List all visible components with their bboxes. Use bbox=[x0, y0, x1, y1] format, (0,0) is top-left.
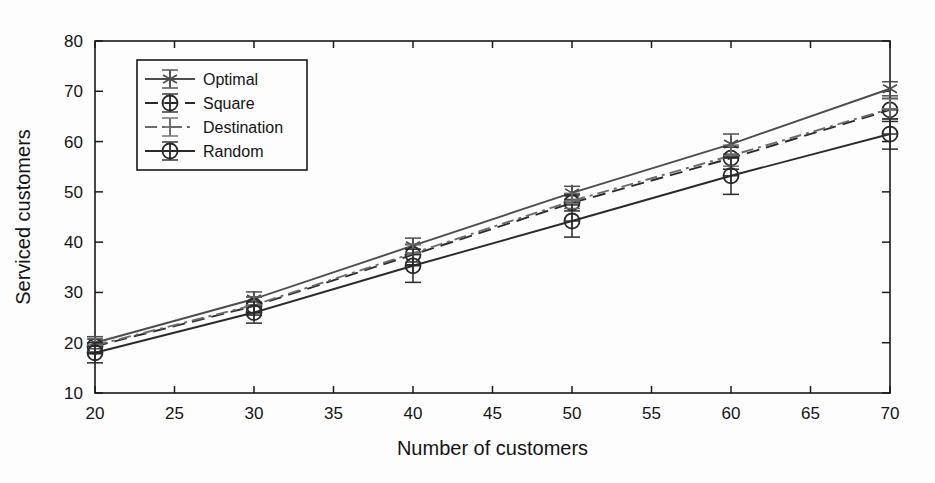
marker-circle bbox=[883, 127, 898, 142]
x-tick-label: 35 bbox=[324, 404, 343, 423]
marker-circle bbox=[724, 168, 739, 183]
legend-group: OptimalSquareDestinationRandom bbox=[137, 60, 307, 170]
x-axis-label: Number of customers bbox=[397, 437, 588, 459]
y-tick-label: 30 bbox=[64, 283, 83, 302]
marker-circle bbox=[406, 258, 421, 273]
y-tick-label: 40 bbox=[64, 233, 83, 252]
y-tick-label: 20 bbox=[64, 334, 83, 353]
y-axis-label: Serviced customers bbox=[12, 129, 34, 305]
chart-canvas: 20253035404550556065701020304050607080 O… bbox=[0, 0, 935, 483]
marker-circle bbox=[163, 96, 178, 111]
x-tick-label: 60 bbox=[722, 404, 741, 423]
x-tick-label: 40 bbox=[404, 404, 423, 423]
y-tick-label: 50 bbox=[64, 183, 83, 202]
x-tick-label: 70 bbox=[881, 404, 900, 423]
marker-circle bbox=[163, 144, 178, 159]
x-tick-label: 55 bbox=[642, 404, 661, 423]
y-tick-label: 10 bbox=[64, 384, 83, 403]
x-tick-label: 50 bbox=[563, 404, 582, 423]
x-tick-label: 30 bbox=[245, 404, 264, 423]
legend-label: Destination bbox=[203, 119, 283, 136]
x-tick-label: 20 bbox=[86, 404, 105, 423]
marker-circle bbox=[565, 214, 580, 229]
x-tick-label: 45 bbox=[483, 404, 502, 423]
y-tick-label: 60 bbox=[64, 133, 83, 152]
chart-figure: 20253035404550556065701020304050607080 O… bbox=[0, 0, 935, 483]
legend-label: Random bbox=[203, 143, 263, 160]
legend-label: Square bbox=[203, 95, 255, 112]
marker-circle bbox=[247, 305, 262, 320]
y-tick-label: 80 bbox=[64, 32, 83, 51]
y-tick-label: 70 bbox=[64, 82, 83, 101]
marker-circle bbox=[88, 345, 103, 360]
x-tick-label: 25 bbox=[165, 404, 184, 423]
legend-label: Optimal bbox=[203, 71, 258, 88]
x-tick-label: 65 bbox=[801, 404, 820, 423]
